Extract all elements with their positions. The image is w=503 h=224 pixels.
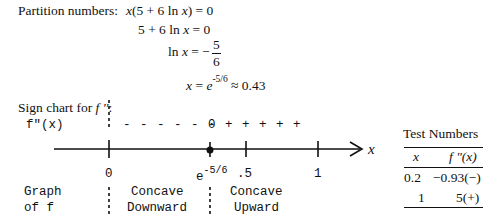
partition-label: Partition numbers: xyxy=(18,3,118,19)
fraction-numerator: 5 xyxy=(212,38,221,54)
table-top-rule xyxy=(404,147,483,148)
graph-label-line1: Graph xyxy=(24,185,62,199)
axis-label-x: x xyxy=(368,141,375,158)
region1-line2: Downward xyxy=(127,201,187,215)
table-cell-fpp-1: −0.93(−) xyxy=(433,170,481,186)
eq1-mid: (5 + 6 ln xyxy=(132,3,182,18)
eq4-approx: ≈ 0.43 xyxy=(228,78,266,93)
table-bottom-rule xyxy=(404,207,483,208)
equation-2: 5 + 6 ln x = 0 xyxy=(138,22,210,38)
number-line xyxy=(0,100,380,224)
table-header-rule xyxy=(404,167,483,168)
eq4-eq: = xyxy=(192,78,206,93)
tick-label-exponent: -5/6 xyxy=(204,165,228,176)
table-header-x: x xyxy=(413,149,419,165)
table-cell-x-1: 0.2 xyxy=(404,170,421,186)
table-cell-fpp-2: 5(+) xyxy=(456,190,479,206)
tick-label-one: 1 xyxy=(314,167,322,181)
fraction-5-6: 56 xyxy=(212,38,221,68)
tick-label-0: 0 xyxy=(105,167,113,181)
eq4-exponent: -5/6 xyxy=(212,74,227,84)
equation-4: x = e-5/6 ≈ 0.43 xyxy=(186,76,265,94)
region1-line1: Concave xyxy=(131,185,184,199)
equation-3: ln x = −56 xyxy=(168,38,221,68)
fraction-denominator: 6 xyxy=(213,54,220,69)
eq2-rhs: = 0 xyxy=(189,22,210,37)
test-numbers-title: Test Numbers xyxy=(403,126,478,142)
tick-label-e: e xyxy=(196,170,204,184)
table-header-fpp: f "(x) xyxy=(449,149,477,165)
eq2-text: 5 + 6 ln xyxy=(138,22,183,37)
eq1-rhs: ) = 0 xyxy=(188,3,214,18)
table-cell-x-2: 1 xyxy=(418,190,425,206)
graph-label-line2: of f xyxy=(24,201,54,215)
region2-line1: Concave xyxy=(230,185,283,199)
region2-line2: Upward xyxy=(234,201,279,215)
eq3-ln: ln xyxy=(168,44,182,59)
equation-1: x(5 + 6 ln x) = 0 xyxy=(126,3,213,19)
eq3-eq: = − xyxy=(188,44,210,59)
tick-label-half: .5 xyxy=(237,167,252,181)
tick-label-partition: e-5/6 xyxy=(196,167,228,184)
